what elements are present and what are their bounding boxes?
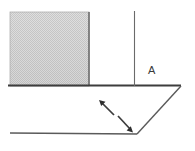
figure-root: A xyxy=(0,0,195,151)
hatched-block-pattern-overlay xyxy=(10,12,89,86)
bottom-surface-line xyxy=(10,133,137,134)
chamfer-right-edge xyxy=(137,86,181,134)
hatched-block-group xyxy=(10,12,89,86)
dimension-arrow-segment-lower xyxy=(118,116,131,130)
technical-drawing-canvas: A xyxy=(0,0,195,151)
dimension-arrow xyxy=(99,100,133,133)
label-a: A xyxy=(148,64,156,76)
